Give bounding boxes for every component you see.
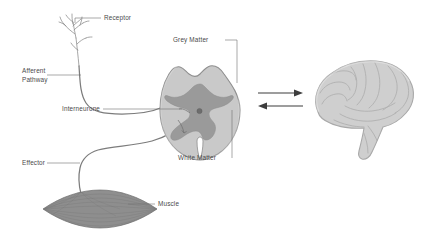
brain-to-cord-arrow xyxy=(258,102,303,109)
diagram-canvas: Receptor Afferent Pathway Interneurone G… xyxy=(0,0,439,242)
central-canal xyxy=(197,108,202,113)
spinal-cord-cross-section xyxy=(160,57,240,160)
label-muscle: Muscle xyxy=(158,200,179,207)
label-receptor: Receptor xyxy=(104,14,132,22)
label-interneurone: Interneurone xyxy=(62,105,100,112)
receptor-icon xyxy=(59,14,92,66)
label-grey-matter: Grey Matter xyxy=(173,36,209,44)
brain xyxy=(316,61,414,159)
label-afferent-line2: Pathway xyxy=(22,76,48,84)
muscle xyxy=(43,190,157,228)
label-effector: Effector xyxy=(22,159,46,166)
label-white-matter: White Matter xyxy=(178,154,217,161)
label-afferent-line1: Afferent xyxy=(22,67,46,74)
reflex-arc-diagram: Receptor Afferent Pathway Interneurone G… xyxy=(0,0,439,242)
cord-to-brain-arrow xyxy=(258,89,303,96)
